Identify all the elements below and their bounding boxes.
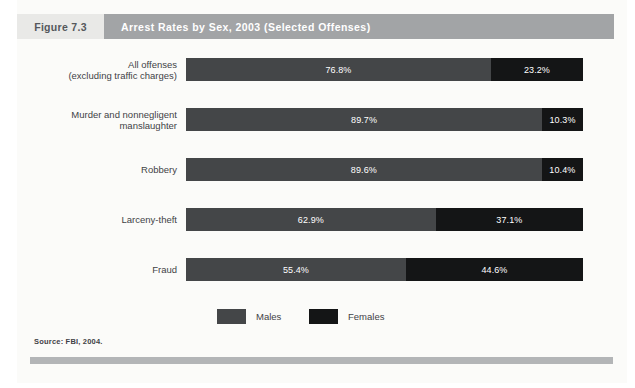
legend-label-females: Females	[348, 311, 384, 322]
bar-segment-males: 62.9%	[186, 208, 436, 231]
bar-segment-females: 23.2%	[491, 58, 583, 81]
legend-item-males: Males	[217, 308, 281, 324]
stacked-bar: 89.7%10.3%	[186, 108, 583, 131]
legend-swatch-males-icon	[217, 309, 246, 324]
bar-value-females: 23.2%	[524, 65, 550, 75]
source-note: Source: FBI, 2004.	[34, 337, 103, 346]
bar-value-females: 37.1%	[496, 215, 522, 225]
bar-segment-males: 55.4%	[186, 258, 406, 281]
bar-segment-females: 37.1%	[436, 208, 583, 231]
category-label-line: (excluding traffic charges)	[17, 70, 177, 82]
stacked-bar-chart: All offenses(excluding traffic charges)7…	[17, 50, 614, 300]
category-label-line: Fraud	[17, 264, 177, 276]
bar-segment-females: 10.3%	[542, 108, 583, 131]
chart-legend: Males Females	[17, 308, 614, 326]
figure-page: Figure 7.3 Arrest Rates by Sex, 2003 (Se…	[0, 0, 635, 388]
figure-title-block: Arrest Rates by Sex, 2003 (Selected Offe…	[104, 14, 614, 39]
category-label: All offenses(excluding traffic charges)	[17, 58, 177, 81]
figure-number-block: Figure 7.3	[17, 14, 104, 39]
stacked-bar: 55.4%44.6%	[186, 258, 583, 281]
bar-value-males: 89.7%	[351, 115, 377, 125]
bar-value-males: 55.4%	[283, 265, 309, 275]
legend-label-males: Males	[256, 311, 281, 322]
figure-number-label: Figure 7.3	[34, 21, 87, 33]
legend-item-females: Females	[309, 308, 384, 324]
bar-segment-females: 10.4%	[542, 158, 583, 181]
stacked-bar: 76.8%23.2%	[186, 58, 583, 81]
figure-title: Arrest Rates by Sex, 2003 (Selected Offe…	[104, 21, 371, 33]
chart-row: Murder and nonnegligentmanslaughter89.7%…	[17, 108, 614, 131]
bar-segment-males: 89.6%	[186, 158, 542, 181]
bar-value-females: 44.6%	[481, 265, 507, 275]
bar-segment-males: 89.7%	[186, 108, 542, 131]
bar-segment-females: 44.6%	[406, 258, 583, 281]
bottom-rule	[30, 357, 613, 364]
category-label-line: Larceny-theft	[17, 214, 177, 226]
category-label-line: All offenses	[17, 58, 177, 70]
bar-value-females: 10.3%	[550, 115, 576, 125]
chart-row: Fraud55.4%44.6%	[17, 258, 614, 281]
category-label-line: Robbery	[17, 164, 177, 176]
category-label: Robbery	[17, 164, 177, 176]
bar-value-males: 76.8%	[325, 65, 351, 75]
figure-header: Figure 7.3 Arrest Rates by Sex, 2003 (Se…	[17, 14, 614, 39]
category-label: Larceny-theft	[17, 214, 177, 226]
chart-row: All offenses(excluding traffic charges)7…	[17, 58, 614, 81]
stacked-bar: 89.6%10.4%	[186, 158, 583, 181]
category-label: Fraud	[17, 264, 177, 276]
bar-value-females: 10.4%	[549, 165, 575, 175]
stacked-bar: 62.9%37.1%	[186, 208, 583, 231]
category-label-line: Murder and nonnegligent	[17, 108, 177, 120]
bar-value-males: 89.6%	[351, 165, 377, 175]
legend-swatch-females-icon	[309, 309, 338, 324]
chart-row: Larceny-theft62.9%37.1%	[17, 208, 614, 231]
bar-segment-males: 76.8%	[186, 58, 491, 81]
category-label-line: manslaughter	[17, 120, 177, 132]
chart-row: Robbery89.6%10.4%	[17, 158, 614, 181]
bar-value-males: 62.9%	[298, 215, 324, 225]
category-label: Murder and nonnegligentmanslaughter	[17, 108, 177, 131]
